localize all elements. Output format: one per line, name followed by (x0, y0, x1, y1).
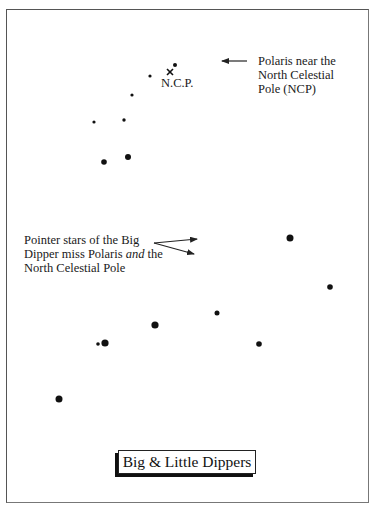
polaris-annotation-line: Pole (NCP) (258, 82, 336, 96)
star-alcor-icon (96, 342, 100, 346)
star-icon (327, 284, 333, 290)
star-polaris-icon (173, 63, 177, 67)
pointer-annotation-line: Pointer stars of the Big (24, 233, 163, 247)
star-icon (130, 93, 133, 96)
polaris-annotation-line: North Celestial (258, 68, 336, 82)
ncp-label: N.C.P. (161, 76, 193, 91)
star-icon (148, 74, 151, 77)
star-icon (101, 339, 108, 346)
text: the (144, 247, 162, 261)
polaris-annotation: Polaris near the North Celestial Pole (N… (258, 54, 336, 96)
star-icon (92, 120, 95, 123)
pointer-annotation-line: North Celestial Pole (24, 261, 163, 275)
pointer-annotation-line: Dipper miss Polaris and the (24, 247, 163, 261)
star-icon (215, 311, 220, 316)
star-icon (256, 341, 262, 347)
star-icon (122, 118, 125, 121)
diagram-title: Big & Little Dippers (118, 450, 256, 474)
text: Dipper miss Polaris (24, 247, 126, 261)
star-icon (151, 321, 158, 328)
emphasis: and (126, 247, 145, 261)
star-icon (125, 154, 131, 160)
star-icon (287, 235, 294, 242)
ncp-cross-icon (167, 69, 173, 75)
star-icon (56, 396, 63, 403)
star-icon (101, 159, 107, 165)
pointer-annotation: Pointer stars of the Big Dipper miss Pol… (24, 233, 163, 275)
polaris-annotation-line: Polaris near the (258, 54, 336, 68)
